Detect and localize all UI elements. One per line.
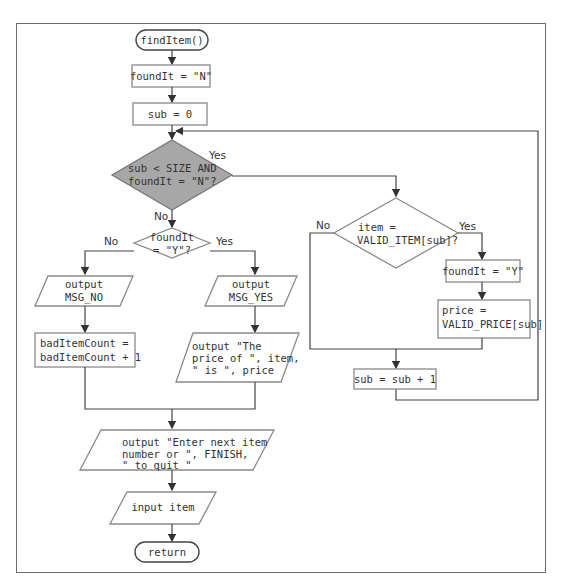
svg-text:" is ", price: " is ", price (192, 364, 274, 376)
bad-count-process: badItemCount = badItemCount + 1 (35, 333, 141, 367)
svg-text:foundIt = "N"?: foundIt = "N"? (128, 175, 217, 187)
svg-text:output: output (65, 278, 103, 290)
svg-text:findItem(): findItem() (140, 34, 203, 46)
svg-text:VALID_PRICE[sub]: VALID_PRICE[sub] (442, 318, 543, 331)
connector (85, 251, 134, 274)
svg-text:return: return (148, 546, 186, 558)
match-decision: item = VALID_ITEM[sub]? (334, 198, 458, 268)
set-found-process: foundIt = "Y" (442, 260, 524, 282)
connector (458, 233, 482, 259)
output-msg-yes: output MSG_YES (205, 276, 297, 306)
svg-text:VALID_ITEM[sub]?: VALID_ITEM[sub]? (357, 234, 458, 247)
svg-text:foundIt: foundIt (150, 231, 194, 243)
svg-text:badItemCount =: badItemCount = (40, 337, 129, 349)
set-price-process: price = VALID_PRICE[sub] (438, 300, 543, 338)
found-no-label: No (104, 235, 118, 247)
match-yes-label: Yes (458, 220, 476, 232)
init-sub-process: sub = 0 (133, 103, 207, 125)
svg-text:price of ", item,: price of ", item, (192, 352, 299, 364)
svg-text:output "The: output "The (192, 340, 262, 352)
output-price: output "The price of ", item, " is ", pr… (176, 333, 299, 382)
end-terminal: return (135, 542, 199, 562)
svg-text:= "Y"?: = "Y"? (153, 244, 191, 256)
output-msg-no: output MSG_NO (35, 276, 133, 306)
input-item: input item (110, 492, 216, 524)
loop-no-label: No (154, 210, 168, 222)
svg-text:sub < SIZE AND: sub < SIZE AND (128, 162, 217, 174)
increment-process: sub = sub + 1 (354, 369, 436, 389)
start-terminal: findItem() (136, 30, 208, 50)
svg-text:input item: input item (131, 501, 194, 513)
init-found-process: foundIt = "N" (130, 65, 212, 87)
output-prompt: output "Enter next item number or ", FIN… (80, 430, 274, 471)
svg-text:sub = 0: sub = 0 (148, 108, 192, 120)
svg-text:foundIt = "Y": foundIt = "Y" (442, 265, 524, 277)
svg-text:sub = sub + 1: sub = sub + 1 (354, 373, 436, 385)
svg-text:price =: price = (442, 304, 486, 316)
svg-text:item =: item = (358, 221, 396, 233)
connector (210, 251, 255, 274)
loop-yes-label: Yes (208, 149, 226, 161)
svg-text:MSG_NO: MSG_NO (65, 291, 103, 304)
svg-text:" to quit ": " to quit " (122, 459, 192, 471)
found-decision: foundIt = "Y"? (134, 228, 210, 258)
svg-text:output: output (232, 278, 270, 290)
match-no-label: No (316, 219, 330, 231)
svg-text:foundIt = "N": foundIt = "N" (130, 70, 212, 82)
connector (232, 176, 396, 196)
found-yes-label: Yes (215, 235, 233, 247)
svg-text:MSG_YES: MSG_YES (229, 291, 273, 304)
svg-text:output "Enter next item: output "Enter next item (122, 436, 267, 448)
flowchart: findItem() foundIt = "N" sub = 0 sub < S… (0, 0, 564, 588)
svg-text:badItemCount + 1: badItemCount + 1 (40, 351, 141, 363)
